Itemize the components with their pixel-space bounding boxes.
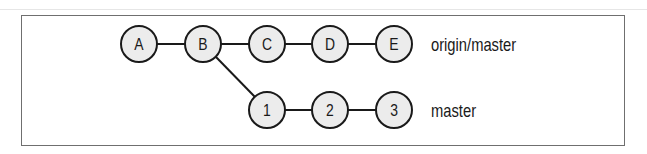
commit-node-b: B <box>185 26 221 62</box>
edge-b-1 <box>216 57 255 97</box>
branch-label-master: master <box>431 101 477 121</box>
commit-label-d: D <box>325 35 335 54</box>
commit-node-a: A <box>121 26 157 62</box>
commit-node-1: 1 <box>249 92 285 128</box>
commit-node-c: C <box>249 26 285 62</box>
commit-label-3: 3 <box>390 101 398 120</box>
commit-label-a: A <box>134 35 144 54</box>
commit-node-2: 2 <box>312 92 348 128</box>
commit-label-1: 1 <box>263 101 271 120</box>
commit-label-e: E <box>389 35 398 54</box>
commit-node-d: D <box>312 26 348 62</box>
branch-label-origin-master: origin/master <box>431 35 517 55</box>
commit-graph: A B C D E 1 2 3 origin/master master <box>0 0 647 154</box>
commit-node-e: E <box>376 26 412 62</box>
commit-node-3: 3 <box>376 92 412 128</box>
commit-label-2: 2 <box>326 101 334 120</box>
commit-label-c: C <box>262 35 272 54</box>
commit-label-b: B <box>198 35 207 54</box>
